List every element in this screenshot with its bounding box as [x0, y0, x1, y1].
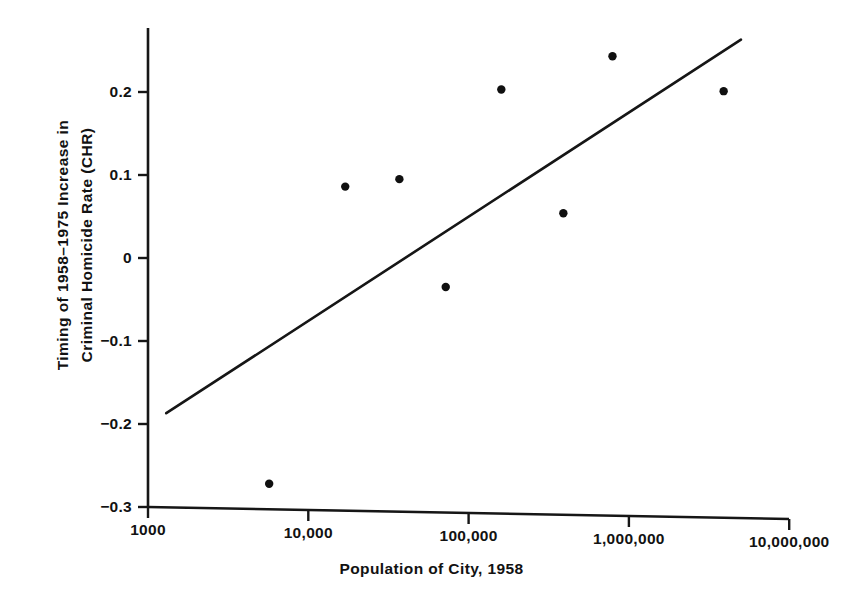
data-point [559, 209, 567, 217]
data-point [442, 283, 450, 291]
data-point [265, 480, 273, 488]
regression-line-segment [166, 40, 741, 414]
regression-line [166, 40, 741, 414]
scatter-plot-canvas [0, 0, 863, 606]
data-point [497, 85, 505, 93]
data-point [341, 182, 349, 190]
data-point [608, 52, 616, 60]
axes [138, 28, 789, 530]
data-points [265, 52, 728, 488]
data-point [719, 87, 727, 95]
chart-figure: Timing of 1958–1975 Increase in Criminal… [0, 0, 863, 606]
data-point [395, 175, 403, 183]
